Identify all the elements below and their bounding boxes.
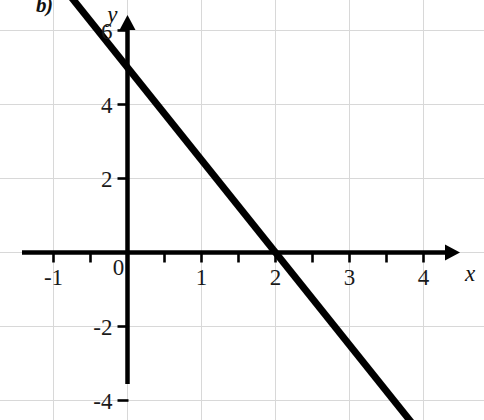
- axis-titles: yx: [105, 2, 476, 286]
- data-series-line: [31, 0, 445, 420]
- y-tick-label: 4: [101, 93, 113, 118]
- x-tick-label: 4: [418, 265, 430, 290]
- y-tick-label: -4: [93, 389, 113, 414]
- x-tick-label: 2: [270, 265, 282, 290]
- series-line-segment: [31, 0, 445, 420]
- x-tick-label: -1: [44, 265, 63, 290]
- axes: [22, 15, 460, 384]
- y-axis-arrowhead: [120, 15, 136, 30]
- x-tick-label: 3: [344, 265, 356, 290]
- line-chart: -101234 108642-2-4-6-8 yx: [0, 0, 484, 420]
- x-axis-title: x: [464, 261, 476, 286]
- figure-container: b) -101234 108642-2-4-6-8 yx: [0, 0, 484, 420]
- x-axis-arrowhead: [445, 245, 460, 261]
- part-label: b): [36, 0, 53, 18]
- x-tick-label-origin: 0: [113, 255, 125, 280]
- y-tick-label: -2: [93, 315, 112, 340]
- y-tick-label: 2: [101, 167, 113, 192]
- x-tick-label: 1: [196, 265, 208, 290]
- y-axis-title: y: [105, 2, 118, 27]
- tick-labels: -101234 108642-2-4-6-8: [44, 0, 430, 420]
